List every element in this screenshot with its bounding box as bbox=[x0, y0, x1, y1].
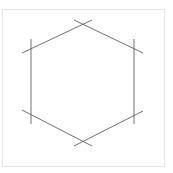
edge-top-left bbox=[22, 20, 92, 53]
edge-bottom-right bbox=[74, 111, 143, 146]
drawing-canvas bbox=[0, 0, 173, 173]
hexagon-shape-svg bbox=[0, 0, 173, 173]
edge-top-right bbox=[74, 20, 143, 53]
hexagon-edge-group bbox=[22, 20, 143, 146]
edge-bottom-left bbox=[22, 110, 92, 146]
